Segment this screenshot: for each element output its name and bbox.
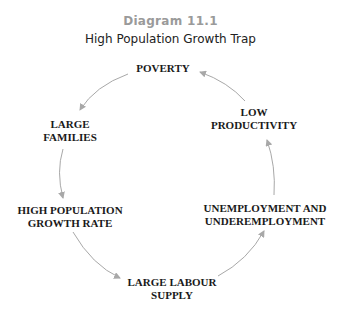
node-label-line-2: SUPPLY [128, 289, 217, 302]
arrow-high-population-to-large-labour [73, 232, 120, 278]
arrow-unemployment-to-low-productivity [267, 140, 274, 195]
node-label-line-2: UNDEREMPLOYMENT [204, 215, 327, 228]
node-high-population-growth-rate: HIGH POPULATION GROWTH RATE [17, 204, 122, 230]
arrow-poverty-to-large-families [80, 74, 128, 110]
arrow-large-families-to-high-population [60, 149, 64, 198]
node-label-line-1: LARGE [43, 118, 97, 131]
arrow-low-productivity-to-poverty [200, 72, 245, 101]
diagram-canvas: Diagram 11.1 High Population Growth Trap… [0, 0, 341, 314]
node-unemployment-and-underemployment: UNEMPLOYMENT AND UNDEREMPLOYMENT [204, 202, 327, 228]
cycle-arrows [0, 0, 341, 314]
node-label-line-2: GROWTH RATE [17, 217, 122, 230]
arrow-large-labour-to-unemployment [218, 231, 264, 276]
node-label-line-1: LARGE LABOUR [128, 276, 217, 289]
node-label-line-2: FAMILIES [43, 131, 97, 144]
node-low-productivity: LOW PRODUCTIVITY [211, 106, 297, 132]
node-large-labour-supply: LARGE LABOUR SUPPLY [128, 276, 217, 302]
node-large-families: LARGE FAMILIES [43, 118, 97, 144]
node-label-line-1: HIGH POPULATION [17, 204, 122, 217]
node-label-line-1: LOW [211, 106, 297, 119]
node-label: POVERTY [136, 62, 189, 75]
node-label-line-2: PRODUCTIVITY [211, 119, 297, 132]
node-poverty: POVERTY [136, 62, 189, 75]
node-label-line-1: UNEMPLOYMENT AND [204, 202, 327, 215]
